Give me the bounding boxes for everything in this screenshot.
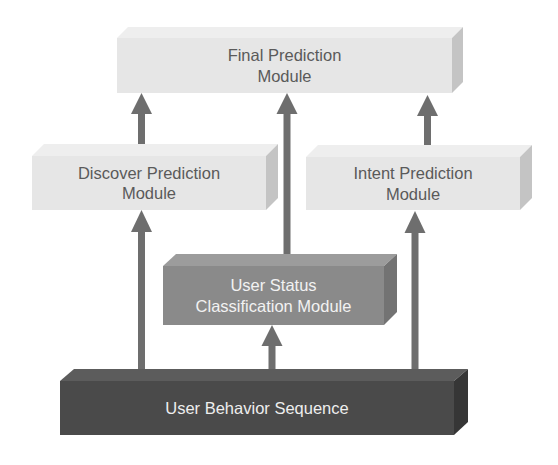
intent-prediction-module: Intent Prediction Module xyxy=(306,157,520,210)
arrow-sequence-to-discover xyxy=(131,210,152,370)
arrow-sequence-to-status xyxy=(262,325,283,370)
final-prediction-module: Final Prediction Module xyxy=(117,38,452,93)
user-status-classification-module-label: User Status Classification Module xyxy=(196,275,352,315)
arrow-status-to-final xyxy=(277,93,298,255)
discover-prediction-module-label: Discover Prediction Module xyxy=(78,163,220,203)
arrow-sequence-to-intent xyxy=(405,211,426,370)
final-prediction-module-label: Final Prediction Module xyxy=(228,45,342,85)
user-behavior-sequence: User Behavior Sequence xyxy=(60,381,454,435)
user-status-classification-module: User Status Classification Module xyxy=(163,266,384,325)
intent-prediction-module-label: Intent Prediction Module xyxy=(353,163,472,203)
discover-prediction-module: Discover Prediction Module xyxy=(32,156,266,210)
user-behavior-sequence-label: User Behavior Sequence xyxy=(165,398,348,418)
